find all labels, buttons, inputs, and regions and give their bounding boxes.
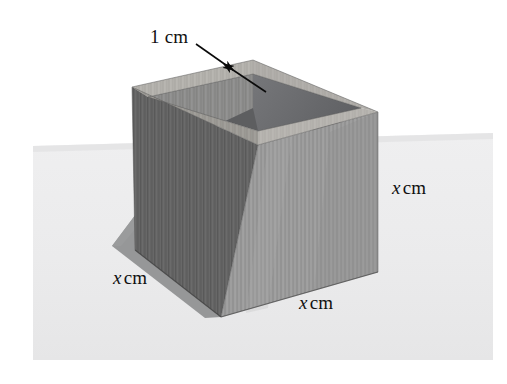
label-height: xcm — [392, 178, 426, 197]
depth-unit: cm — [124, 267, 148, 288]
open-box-illustration — [0, 0, 507, 384]
height-unit: cm — [403, 177, 427, 198]
width-variable: x — [299, 292, 310, 313]
label-wall-thickness: 1 cm — [150, 27, 188, 46]
height-variable: x — [392, 177, 403, 198]
label-width: xcm — [299, 293, 333, 312]
width-unit: cm — [310, 292, 334, 313]
depth-variable: x — [113, 267, 124, 288]
figure-canvas: 1 cm xcm xcm xcm — [0, 0, 507, 384]
wall-thickness-text: 1 cm — [150, 26, 188, 47]
label-depth: xcm — [113, 268, 147, 287]
